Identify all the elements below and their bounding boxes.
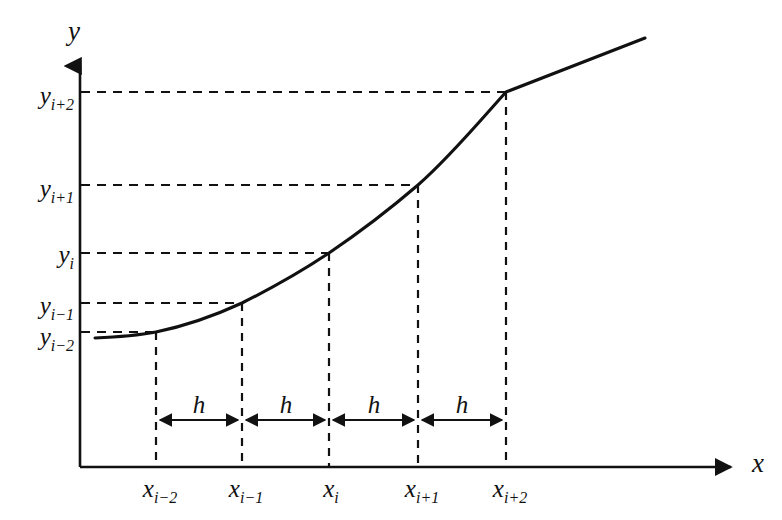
spacing-label-h-4: h [456,392,469,417]
x-tick-label-xi+2: xi+2 [493,476,527,501]
x-tick-base-xi-1: x [229,475,240,502]
x-axis-label: x [752,450,764,477]
y-tick-sub-yi: i [70,255,74,272]
y-tick-base-yi-2: y [40,323,51,350]
y-tick-sub-yi-2: i−2 [51,337,74,354]
x-tick-label-xi-2: xi−2 [143,476,177,501]
y-tick-label-yi-1: yi−1 [40,293,74,318]
x-tick-base-xi: x [323,475,334,502]
x-tick-sub-xi: i [334,489,338,506]
y-tick-label-yi+2: yi+2 [40,83,74,108]
spacing-label-h-2: h [280,392,293,417]
diagram-svg [0,0,782,520]
y-tick-label-yi-2: yi−2 [40,324,74,349]
y-tick-sub-yi+1: i+1 [51,189,74,206]
x-tick-sub-xi+1: i+1 [416,489,439,506]
y-tick-label-yi: yi [58,242,74,267]
y-tick-sub-yi-1: i−1 [51,306,74,323]
y-tick-base-yi-1: y [40,292,51,319]
x-tick-sub-xi-2: i−2 [154,489,177,506]
x-tick-sub-xi+2: i+2 [504,489,527,506]
y-tick-base-yi: y [58,241,69,268]
x-tick-base-xi+2: x [493,475,504,502]
y-tick-label-yi+1: yi+1 [40,176,74,201]
x-tick-base-xi+1: x [405,475,416,502]
axes-group [80,66,731,467]
y-tick-sub-yi+2: i+2 [51,96,74,113]
spacing-label-h-1: h [193,392,206,417]
x-tick-sub-xi-1: i−1 [240,489,263,506]
x-tick-base-xi-2: x [143,475,154,502]
y-tick-base-yi+2: y [40,82,51,109]
x-tick-label-xi-1: xi−1 [229,476,263,501]
figure-canvas: y x yi+2 yi+1 yi yi−1 yi−2 xi−2 xi−1 xi … [0,0,782,520]
y-axis-label: y [68,18,80,45]
x-tick-label-xi: xi [323,476,339,501]
x-tick-label-xi+1: xi+1 [405,476,439,501]
function-curve [95,38,645,338]
horizontal-dashed-lines [81,92,506,332]
y-tick-base-yi+1: y [40,175,51,202]
spacing-label-h-3: h [368,392,381,417]
